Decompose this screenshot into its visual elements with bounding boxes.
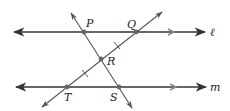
point-s (117, 85, 122, 90)
point-r (99, 57, 104, 62)
point-t (65, 85, 70, 90)
label-t: T (64, 91, 73, 104)
label-q: Q (127, 18, 136, 31)
point-p (82, 30, 87, 35)
label-line-l: ℓ (210, 26, 215, 39)
line-m (16, 84, 206, 90)
label-s: S (110, 91, 118, 104)
label-p: P (85, 17, 94, 30)
line-l (14, 29, 205, 35)
label-line-m: m (210, 81, 220, 94)
geometry-diagram: P Q R T S ℓ m (0, 0, 230, 111)
label-r: R (106, 55, 115, 68)
